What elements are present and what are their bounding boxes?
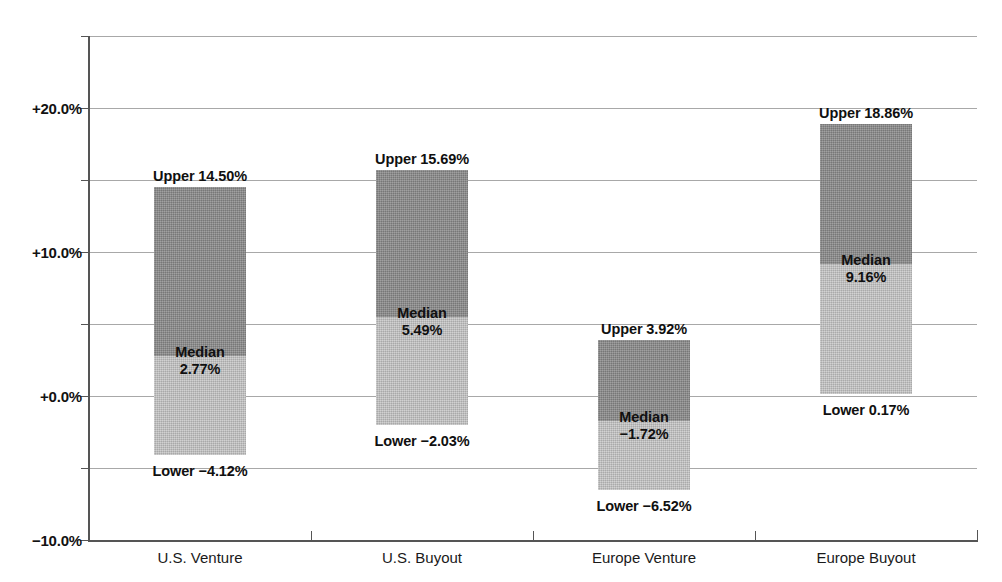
median-value-block: Median5.49% — [397, 305, 446, 339]
gridline — [89, 36, 977, 37]
median-caption: Median — [397, 305, 446, 322]
median-value-label: −1.72% — [619, 426, 668, 443]
y-axis-tick — [81, 468, 89, 469]
median-value-label: 5.49% — [397, 322, 446, 339]
x-axis-tick — [311, 531, 312, 540]
x-axis-category-label: U.S. Venture — [89, 549, 311, 566]
lower-value-label: Lower −4.12% — [152, 463, 247, 479]
y-axis-tick — [81, 324, 89, 325]
median-value-block: Median2.77% — [175, 344, 224, 378]
median-value-block: Median−1.72% — [619, 409, 668, 443]
y-axis-label: +20.0% — [32, 100, 82, 117]
y-axis-label: +0.0% — [40, 388, 82, 405]
range-bar — [154, 187, 246, 455]
y-axis-tick — [81, 396, 89, 397]
x-axis-tick — [533, 531, 534, 540]
x-axis-category-label: Europe Venture — [533, 549, 755, 566]
y-axis-tick — [81, 36, 89, 37]
x-axis-tick — [89, 530, 90, 542]
median-value-block: Median9.16% — [841, 252, 890, 286]
x-axis-tick — [977, 530, 978, 542]
range-bar — [376, 170, 468, 425]
lower-value-label: Lower 0.17% — [823, 402, 910, 418]
median-value-label: 2.77% — [175, 361, 224, 378]
y-axis-label: +10.0% — [32, 244, 82, 261]
upper-value-label: Upper 3.92% — [601, 321, 687, 337]
lower-value-label: Lower −2.03% — [374, 433, 469, 449]
lower-value-label: Lower −6.52% — [596, 498, 691, 514]
median-value-label: 9.16% — [841, 269, 890, 286]
x-axis-line — [88, 540, 978, 542]
y-axis-tick — [81, 108, 89, 109]
median-caption: Median — [841, 252, 890, 269]
y-axis-tick — [81, 252, 89, 253]
median-caption: Median — [175, 344, 224, 361]
bar-segment-upper — [820, 124, 912, 264]
upper-value-label: Upper 14.50% — [153, 168, 247, 184]
bar-segment-upper — [376, 170, 468, 317]
y-axis-tick — [81, 180, 89, 181]
y-axis-line — [88, 36, 90, 542]
x-axis-category-label: Europe Buyout — [755, 549, 977, 566]
bar-segment-upper — [154, 187, 246, 356]
median-caption: Median — [619, 409, 668, 426]
upper-value-label: Upper 15.69% — [375, 151, 469, 167]
y-axis-label: −10.0% — [32, 532, 82, 549]
x-axis-category-label: U.S. Buyout — [311, 549, 533, 566]
upper-value-label: Upper 18.86% — [819, 105, 913, 121]
quartile-range-bar-chart: +20.0%+10.0%+0.0%−10.0% Upper 14.50%Medi… — [0, 0, 1002, 582]
x-axis-tick — [755, 531, 756, 540]
